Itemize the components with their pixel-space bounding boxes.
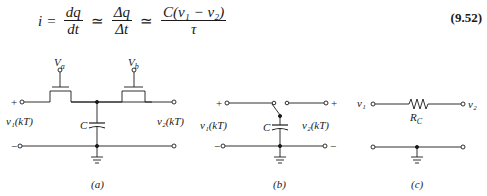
label-v2-kt-b: v₂(kT) (302, 119, 329, 131)
gate-label-b-main: V (128, 56, 135, 68)
gate-label-b: Vb (128, 56, 139, 71)
label-v1-kt-b: v₁(kT) (200, 119, 227, 131)
gate-label-b-sub: b (135, 62, 139, 71)
label-rc-sub: C (417, 117, 422, 126)
plus-sign-b-left: + (216, 97, 222, 109)
label-v1-kt-a: v₁(kT) (6, 115, 33, 127)
plus-sign-b-right: + (331, 97, 337, 109)
label-rc-main: R (410, 111, 417, 123)
label-v2-kt-a: v₂(kT) (157, 115, 184, 127)
label-rc: RC (410, 111, 422, 126)
caption-a: (a) (91, 178, 104, 190)
plus-sign-a: + (11, 96, 17, 108)
gate-label-a-sub: a (61, 62, 65, 71)
label-c-a: C (80, 119, 87, 131)
minus-sign-b-right: − (330, 140, 336, 152)
figure-labels: Va Vb + − v₁(kT) v₂(kT) C (a) + + − − v₁… (0, 0, 487, 196)
minus-sign-a: − (11, 140, 17, 152)
minus-sign-b-left: − (214, 140, 220, 152)
caption-c: (c) (411, 178, 423, 190)
label-v2-c: v₂ (468, 98, 477, 110)
gate-label-a: Va (54, 56, 65, 71)
label-v1-c: v₁ (357, 97, 366, 109)
caption-b: (b) (273, 178, 286, 190)
gate-label-a-main: V (54, 56, 61, 68)
label-c-b: C (263, 121, 270, 133)
